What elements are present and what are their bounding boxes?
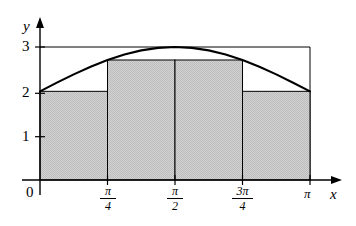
riemann-rect-4 xyxy=(243,91,311,180)
x-tick-label-pi-over-4: π 4 xyxy=(99,185,117,212)
y-tick-label-2: 2 xyxy=(22,84,30,101)
y-tick-label-1: 1 xyxy=(22,128,30,145)
riemann-rect-1 xyxy=(40,91,108,180)
fraction-denominator: 2 xyxy=(166,200,184,212)
riemann-rect-2 xyxy=(108,60,176,180)
origin-label: 0 xyxy=(26,184,34,201)
riemann-rect-3 xyxy=(175,60,243,180)
y-axis-label: y xyxy=(23,18,30,35)
riemann-sum-figure: y x 3 2 1 0 π 4 π 2 3π 4 π xyxy=(0,0,356,226)
fraction-denominator: 4 xyxy=(99,200,117,212)
x-tick-label-3pi-over-4: 3π 4 xyxy=(231,185,254,212)
fraction-numerator: 3π xyxy=(231,185,254,197)
fraction-numerator: π xyxy=(99,185,117,197)
riemann-rectangles xyxy=(40,60,310,180)
x-tick-label-pi: π xyxy=(304,186,311,202)
y-tick-label-3: 3 xyxy=(22,38,30,55)
fraction-numerator: π xyxy=(166,185,184,197)
fraction-denominator: 4 xyxy=(231,200,254,212)
x-axis-label: x xyxy=(330,186,337,203)
x-tick-label-pi-over-2: π 2 xyxy=(166,185,184,212)
